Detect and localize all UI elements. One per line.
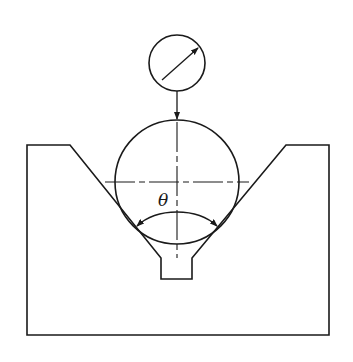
angle-label: θ <box>158 190 168 210</box>
v-block-diagram <box>0 0 353 362</box>
angle-arc-right <box>177 212 217 226</box>
dial-indicator <box>149 35 205 119</box>
dial-needle-icon <box>162 48 198 80</box>
v-block <box>27 145 329 335</box>
angle-arc <box>137 212 177 226</box>
dial-face-icon <box>149 35 205 91</box>
